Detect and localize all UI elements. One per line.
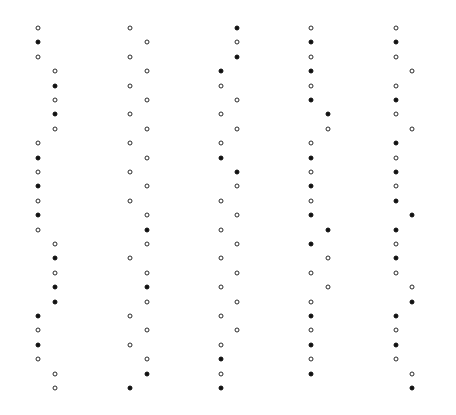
- open-dot-icon: [410, 371, 415, 376]
- filled-dot-icon: [394, 141, 399, 146]
- filled-dot-icon: [410, 386, 415, 391]
- filled-dot-icon: [394, 98, 399, 103]
- filled-dot-icon: [410, 299, 415, 304]
- open-dot-icon: [394, 155, 399, 160]
- dot-pattern-canvas: [0, 0, 456, 415]
- filled-dot-icon: [394, 40, 399, 45]
- filled-dot-icon: [394, 342, 399, 347]
- filled-dot-icon: [394, 170, 399, 175]
- open-dot-icon: [394, 270, 399, 275]
- open-dot-icon: [394, 328, 399, 333]
- column-5: [0, 0, 456, 415]
- open-dot-icon: [394, 357, 399, 362]
- open-dot-icon: [394, 26, 399, 31]
- filled-dot-icon: [394, 227, 399, 232]
- filled-dot-icon: [410, 213, 415, 218]
- open-dot-icon: [410, 285, 415, 290]
- open-dot-icon: [394, 83, 399, 88]
- open-dot-icon: [410, 69, 415, 74]
- open-dot-icon: [394, 112, 399, 117]
- open-dot-icon: [394, 54, 399, 59]
- filled-dot-icon: [394, 256, 399, 261]
- filled-dot-icon: [394, 314, 399, 319]
- open-dot-icon: [394, 184, 399, 189]
- open-dot-icon: [394, 242, 399, 247]
- filled-dot-icon: [394, 198, 399, 203]
- open-dot-icon: [410, 126, 415, 131]
